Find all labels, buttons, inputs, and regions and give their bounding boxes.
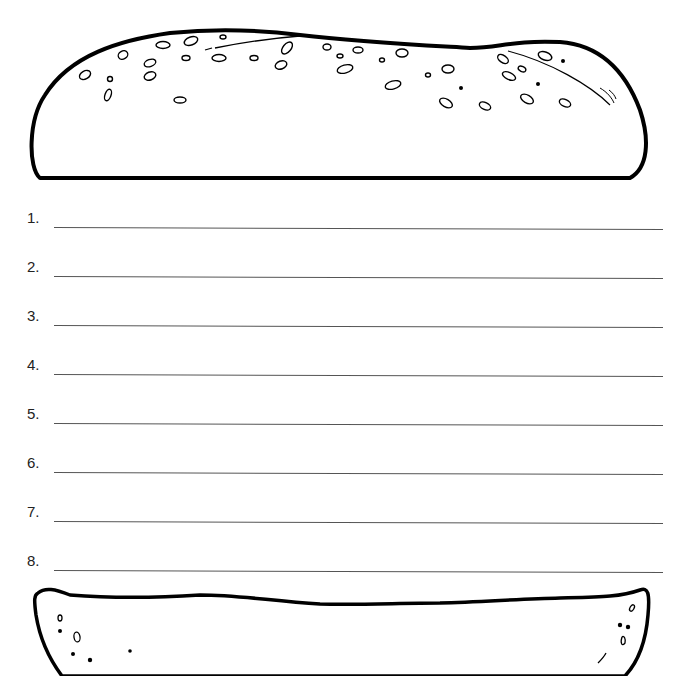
line-number: 5.	[27, 405, 40, 422]
line-number: 8.	[27, 552, 40, 569]
line-number: 7.	[27, 503, 40, 520]
answer-line[interactable]	[54, 276, 663, 279]
answer-line[interactable]	[54, 325, 663, 328]
answer-row-2[interactable]: 2.	[0, 247, 684, 277]
answer-line[interactable]	[54, 423, 663, 426]
line-number: 6.	[27, 454, 40, 471]
line-number: 3.	[27, 307, 40, 324]
answer-row-1[interactable]: 1.	[0, 198, 684, 228]
answer-line[interactable]	[54, 374, 663, 377]
answer-line[interactable]	[54, 227, 663, 230]
answer-row-8[interactable]: 8.	[0, 541, 684, 571]
answer-row-4[interactable]: 4.	[0, 345, 684, 375]
answer-row-3[interactable]: 3.	[0, 296, 684, 326]
line-number: 4.	[27, 356, 40, 373]
line-number: 1.	[27, 209, 40, 226]
line-number: 2.	[27, 258, 40, 275]
answer-line[interactable]	[54, 570, 663, 573]
answer-row-6[interactable]: 6.	[0, 443, 684, 473]
answer-row-7[interactable]: 7.	[0, 492, 684, 522]
answer-line[interactable]	[54, 472, 663, 475]
answer-line[interactable]	[54, 521, 663, 524]
top-bun-icon	[0, 0, 684, 190]
bottom-bun-icon	[0, 585, 684, 676]
answer-row-5[interactable]: 5.	[0, 394, 684, 424]
